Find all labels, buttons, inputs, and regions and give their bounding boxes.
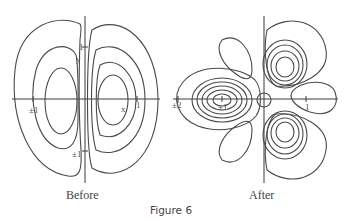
after-lower-right-lobe	[263, 111, 326, 179]
before-x-tick-neg1: ±1	[29, 105, 38, 115]
before-x-tick-pos1: 1	[136, 100, 141, 110]
before-y-tick-pos1: 1	[79, 42, 84, 52]
before-x-axis-label: x	[121, 104, 126, 114]
after-x-tick-neg1: ±1	[218, 102, 227, 112]
figure-canvas: ±1 1 x y 1 ±1 Before	[0, 0, 347, 221]
before-title: Before	[66, 188, 99, 202]
after-upper-right-lobe	[263, 21, 326, 88]
before-y-tick-neg1: ±1	[72, 149, 81, 159]
after-upper-left-loop	[219, 38, 252, 79]
before-y-axis-label: y	[76, 54, 81, 64]
figure-caption: Figure 6	[150, 204, 192, 216]
after-x-tick-pos1: 1	[305, 102, 310, 112]
before-panel: ±1 1 x y 1 ±1 Before	[12, 16, 160, 202]
after-title: After	[249, 188, 274, 202]
after-panel: ±2 ±1 1 After	[172, 16, 338, 202]
after-x-tick-neg2: ±2	[172, 100, 181, 110]
after-right-loop	[291, 82, 336, 113]
